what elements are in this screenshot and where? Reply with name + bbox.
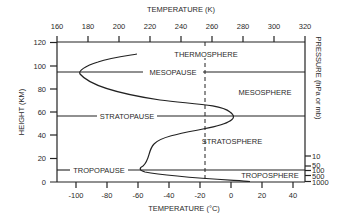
y-tick-label: 120 [33, 38, 46, 47]
stratosphere-label: STRATOSPHERE [202, 137, 263, 146]
x2-tick-label: 220 [144, 22, 157, 31]
y-tick-label: 0 [42, 178, 46, 187]
x2-tick-label: 240 [175, 22, 188, 31]
y-tick-label: 40 [38, 131, 46, 140]
x2-tick-label: 320 [299, 22, 312, 31]
x-tick-labels: -100 -80 -60 -40 -20 0 20 40 [68, 191, 297, 200]
x2-tick-label: 180 [82, 22, 95, 31]
thermosphere-label: THERMOSPHERE [174, 50, 237, 59]
x2-tick-label: 300 [268, 22, 281, 31]
y-tick-label: 80 [38, 85, 46, 94]
x-tick-label: -60 [133, 191, 144, 200]
y-tick-labels: 120 100 80 60 40 20 0 [33, 38, 46, 187]
x-ticks [76, 182, 293, 188]
x-tick-label: 40 [289, 191, 297, 200]
x-tick-label: -80 [102, 191, 113, 200]
x2-axis-title: TEMPERATURE (K) [147, 5, 216, 14]
y-axis-title: HEIGHT (KM) [17, 88, 26, 135]
x-axis-title: TEMPERATURE (°C) [148, 204, 220, 213]
y2-axis-title: PRESSURE (hPa or mb) [314, 37, 323, 120]
x2-tick-label: 280 [237, 22, 250, 31]
plot-frame [50, 42, 305, 182]
pressure-ticks [305, 156, 311, 182]
troposphere-label: TROPOSPHERE [241, 171, 299, 180]
y-ticks [50, 43, 57, 159]
y-tick-label: 60 [38, 108, 46, 117]
pressure-tick-label: 1000 [312, 178, 329, 187]
pressure-tick-labels: 10 50 100 500 1000 [312, 152, 329, 188]
x-tick-label: -100 [68, 191, 83, 200]
y-tick-label: 20 [38, 154, 46, 163]
x2-tick-labels: 160 180 200 220 240 260 280 300 320 [51, 22, 312, 31]
x-tick-label: 0 [229, 191, 233, 200]
layer-boundaries [57, 72, 305, 170]
atmosphere-temperature-chart: TEMPERATURE (K) 160 180 200 220 240 260 … [0, 0, 345, 222]
mesosphere-label: MESOSPHERE [239, 88, 292, 97]
stratopause-label: STRATOPAUSE [100, 112, 155, 121]
x-tick-label: -40 [164, 191, 175, 200]
y-tick-label: 100 [33, 62, 46, 71]
x2-tick-label: 200 [113, 22, 126, 31]
x-tick-label: 20 [258, 191, 266, 200]
x2-ticks [57, 36, 305, 42]
x-tick-label: -20 [195, 191, 206, 200]
mesopause-label: MESOPAUSE [150, 68, 197, 77]
x2-tick-label: 160 [51, 22, 64, 31]
x2-tick-label: 260 [206, 22, 219, 31]
tropopause-label: TROPOPAUSE [73, 166, 125, 175]
pressure-tick-label: 10 [312, 152, 320, 161]
